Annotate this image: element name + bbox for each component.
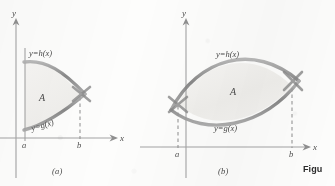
panel-b-tick-label-b: b (289, 149, 293, 159)
figure-svg: y x y=h(x) y=g(x) A a b (0, 0, 335, 186)
panel-a-upper-curve-label: y=h(x) (28, 48, 52, 58)
panel-a-caption: (a) (52, 166, 63, 176)
figure-container: y x y=h(x) y=g(x) A a b (0, 0, 335, 186)
panel-b-x-axis (140, 143, 311, 150)
panel-b-upper-curve-label: y=h(x) (215, 49, 239, 59)
panel-a-x-axis-label: x (119, 133, 124, 143)
panel-b-tick-label-a: a (175, 149, 179, 159)
panel-a-x-axis (0, 134, 118, 141)
panel-b-lower-curve-label: y=g(x) (213, 123, 237, 133)
panel-b-caption: (b) (218, 166, 229, 176)
figure-caption-word: Figu (303, 164, 322, 174)
panel-a-tick-label-a: a (22, 140, 26, 150)
panel-b-x-axis-label: x (312, 142, 317, 152)
panel-a-tick-label-b: b (77, 140, 81, 150)
panel-b: y x y=h(x) y=g(x) A a b (140, 8, 317, 178)
panel-a: y x y=h(x) y=g(x) A a b (0, 8, 124, 178)
panel-a-y-axis (13, 18, 20, 178)
panel-b-region-label: A (229, 86, 237, 97)
panel-b-y-axis-label: y (181, 8, 186, 18)
panel-a-region-label: A (38, 92, 46, 103)
panel-a-y-axis-label: y (11, 8, 16, 18)
